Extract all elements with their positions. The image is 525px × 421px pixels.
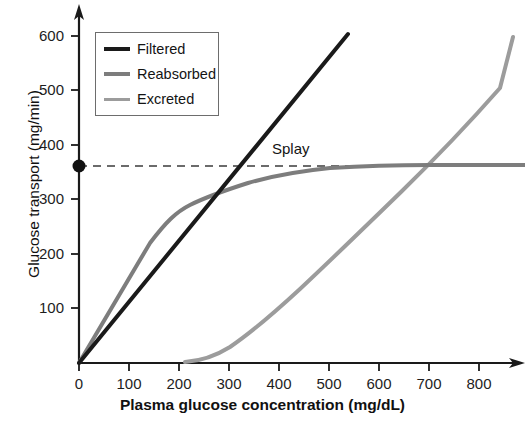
- glucose-transport-chart: 600 500 400 300 200 100 0 100 200 300 40…: [0, 0, 525, 421]
- splay-annotation-label: Splay: [272, 140, 310, 157]
- legend-item-reabsorbed: Reabsorbed: [104, 64, 216, 84]
- legend-label-excreted: Excreted: [137, 91, 194, 107]
- x-tick-label-600: 600: [356, 375, 402, 392]
- legend-label-reabsorbed: Reabsorbed: [137, 66, 216, 82]
- y-tick-label-600: 600: [18, 27, 64, 44]
- legend-swatch-excreted: [104, 98, 130, 101]
- x-tick-label-100: 100: [106, 375, 152, 392]
- legend-swatch-filtered: [104, 47, 130, 51]
- x-axis-ticks: [79, 363, 479, 371]
- tm-marker-dot: [73, 160, 86, 173]
- legend-swatch-reabsorbed: [104, 72, 130, 76]
- y-axis-title: Glucose transport (mg/min): [25, 54, 43, 314]
- plot-area: [0, 0, 525, 421]
- legend: Filtered Reabsorbed Excreted: [95, 32, 219, 116]
- x-tick-label-200: 200: [156, 375, 202, 392]
- series-line-reabsorbed: [79, 165, 525, 363]
- legend-label-filtered: Filtered: [137, 41, 185, 57]
- x-tick-label-800: 800: [456, 375, 502, 392]
- legend-item-excreted: Excreted: [104, 89, 194, 109]
- series-line-excreted: [185, 37, 513, 362]
- x-axis-title: Plasma glucose concentration (mg/dL): [0, 396, 525, 414]
- x-tick-label-300: 300: [206, 375, 252, 392]
- x-tick-label-0: 0: [56, 375, 102, 392]
- x-tick-label-400: 400: [256, 375, 302, 392]
- x-tick-label-700: 700: [406, 375, 452, 392]
- legend-item-filtered: Filtered: [104, 39, 185, 59]
- x-tick-label-500: 500: [306, 375, 352, 392]
